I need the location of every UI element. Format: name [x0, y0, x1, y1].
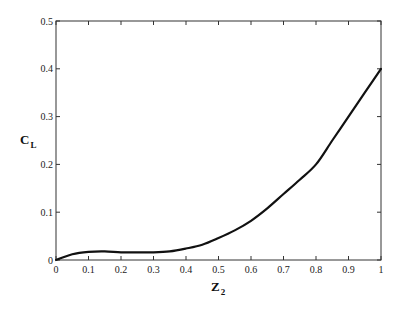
x-tick-label: 0.9 [342, 264, 355, 275]
x-tick-label: 0.4 [180, 264, 193, 275]
y-tick-label: 0 [48, 255, 53, 266]
y-tick-label: 0.1 [41, 207, 54, 218]
x-tick-label: 0.1 [82, 264, 95, 275]
y-tick-label: 0.2 [41, 159, 54, 170]
y-tick-label: 0.3 [41, 111, 54, 122]
x-tick-label: 0.7 [277, 264, 290, 275]
line-chart: 00.10.20.30.40.50.60.70.80.91 00.10.20.3… [0, 0, 398, 309]
x-tick-label: 0.6 [245, 264, 258, 275]
x-axis-title: Z2 [211, 279, 226, 297]
y-tick-label: 0.4 [41, 63, 54, 74]
x-tick-label: 0.2 [115, 264, 128, 275]
x-tick-label: 0.5 [212, 264, 225, 275]
y-tick-label: 0.5 [41, 16, 54, 27]
x-tick-label: 0 [54, 264, 59, 275]
x-tick-label: 1 [379, 264, 384, 275]
x-tick-label: 0.8 [310, 264, 323, 275]
x-tick-label: 0.3 [147, 264, 160, 275]
y-axis-ticks: 00.10.20.30.40.5 [41, 16, 382, 266]
y-axis-title: CL [20, 132, 36, 150]
cl-curve [56, 69, 381, 260]
